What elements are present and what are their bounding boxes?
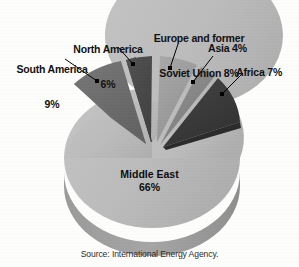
label-asia: Asia 4% <box>208 43 288 55</box>
source-note: Source: International Energy Agency. <box>0 249 299 259</box>
pie-chart: South America 9% North America 6% Europe… <box>0 0 299 267</box>
label-africa: Africa 7% <box>236 67 298 79</box>
label-middle-east-name: Middle East <box>0 168 299 181</box>
label-middle-east: Middle East 66% <box>0 168 299 194</box>
label-middle-east-value: 66% <box>0 181 299 194</box>
label-europe-soviet: Europe and former Soviet Union 8% <box>140 9 258 103</box>
